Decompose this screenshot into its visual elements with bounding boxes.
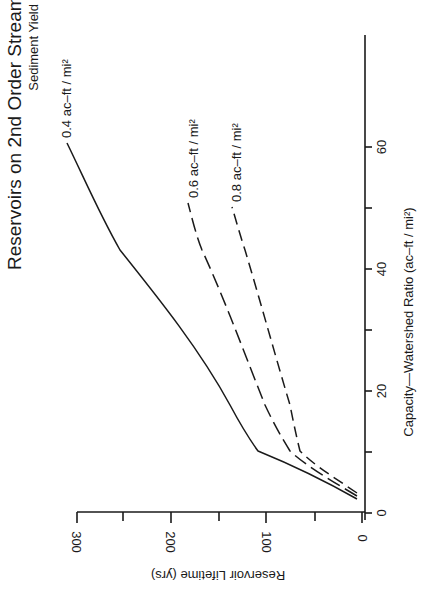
y-axis-lifetime — [77, 512, 365, 523]
y-tick-label-200: 200 — [163, 531, 178, 553]
chart-canvas: Reservoirs on 2nd Order Streams Sediment… — [0, 0, 427, 601]
x-tick-label-20: 20 — [374, 384, 389, 398]
y-tick-label-300: 300 — [69, 531, 84, 553]
curve-sediment-0-6 — [188, 203, 357, 496]
x-tick-label-40: 40 — [374, 262, 389, 276]
curve-sediment-0-4 — [67, 143, 357, 499]
chart-title: Reservoirs on 2nd Order Streams — [4, 0, 25, 270]
y-axis-label: Reservoir Lifetime (yrs) — [151, 568, 285, 583]
series-label-0-8: 0.8 ac–ft / mi² — [229, 123, 244, 202]
y-tick-label-100: 100 — [259, 531, 274, 553]
curve-sediment-0-8 — [232, 207, 357, 493]
y-tick-label-0: 0 — [355, 534, 370, 541]
x-axis-capacity-ratio — [365, 35, 372, 520]
x-axis-label: Capacity—Watershed Ratio (ac–ft / mi²) — [401, 207, 416, 436]
series-label-0-6: 0.6 ac–ft / mi² — [186, 119, 201, 198]
legend-title: Sediment Yield — [26, 4, 41, 91]
x-tick-label-0: 0 — [374, 509, 389, 516]
x-tick-label-60: 60 — [374, 140, 389, 154]
series-label-0-4: 0.4 ac–ft / mi² — [59, 59, 74, 138]
